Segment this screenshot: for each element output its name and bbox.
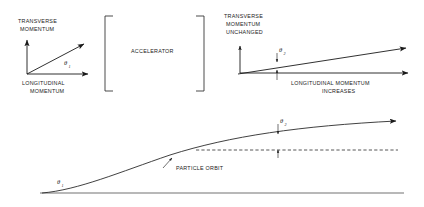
right-bracket-icon (196, 16, 204, 91)
theta2-symbol-bottom: θ (280, 117, 284, 124)
momentum-vector-arrow-left (27, 44, 84, 74)
theta1-subscript-left: 1 (69, 64, 71, 69)
transverse-unchanged-label-line3: UNCHANGED (226, 29, 263, 35)
accelerator-box: ACCELERATOR (105, 16, 204, 91)
theta1-subscript-bottom: 1 (62, 183, 64, 188)
longitudinal-momentum-label-line1: LONGITUDINAL (22, 80, 65, 86)
top-right-panel: TRANSVERSE MOMENTUM UNCHANGED LONGITUDIN… (224, 13, 408, 94)
particle-orbit-label: PARTICLE ORBIT (176, 165, 224, 171)
top-left-panel: TRANSVERSE MOMENTUM LONGITUDINAL MOMENTU… (18, 18, 88, 94)
left-bracket-icon (105, 16, 113, 91)
transverse-momentum-label-line2: MOMENTUM (20, 26, 55, 32)
figure-root: TRANSVERSE MOMENTUM LONGITUDINAL MOMENTU… (0, 0, 424, 207)
theta2-subscript-right: 2 (284, 51, 286, 56)
theta1-symbol-bottom: θ (57, 178, 61, 185)
transverse-unchanged-label-line1: TRANSVERSE (224, 13, 263, 19)
transverse-momentum-label-line1: TRANSVERSE (18, 18, 57, 24)
transverse-unchanged-label-line2: MOMENTUM (226, 21, 261, 27)
particle-orbit-leader-arrow (163, 158, 172, 168)
theta1-symbol-left: θ (64, 59, 68, 66)
longitudinal-increases-label-line2: INCREASES (322, 88, 356, 94)
momentum-vector-arrow-right (238, 48, 406, 74)
diagram-canvas: TRANSVERSE MOMENTUM LONGITUDINAL MOMENTU… (0, 0, 424, 207)
longitudinal-increases-label-line1: LONGITUDINAL MOMENTUM (291, 80, 370, 86)
bottom-panel: PARTICLE ORBIT θ 1 θ 2 (40, 117, 404, 193)
particle-orbit-curve (42, 121, 396, 193)
theta2-subscript-bottom: 2 (285, 122, 287, 127)
theta2-symbol-right: θ (279, 46, 283, 53)
longitudinal-momentum-label-line2: MOMENTUM (30, 88, 65, 94)
accelerator-label: ACCELERATOR (131, 48, 174, 54)
